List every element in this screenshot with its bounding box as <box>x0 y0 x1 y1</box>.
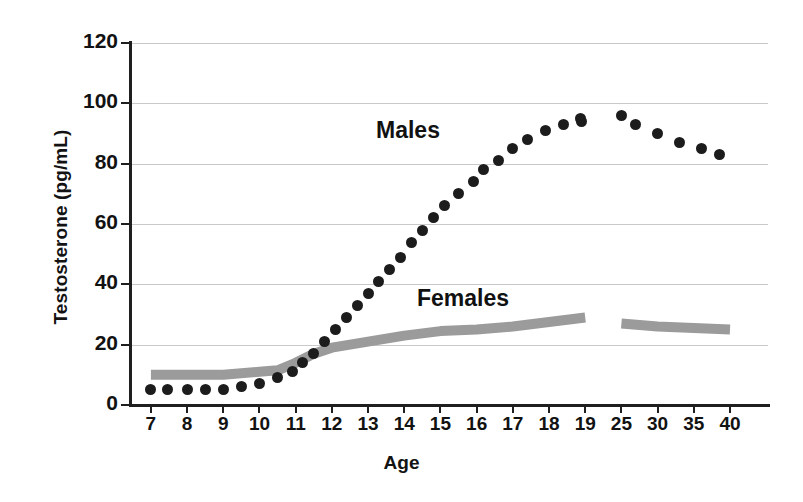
males-data-point <box>330 324 341 335</box>
chart-container: Testosterone (pg/mL) 020406080100120 Mal… <box>0 0 803 502</box>
x-axis-tick <box>548 404 550 413</box>
males-data-point <box>696 143 707 154</box>
series-label-males: Males <box>376 117 440 144</box>
y-axis-tick-label: 120 <box>0 29 118 53</box>
males-data-point <box>341 312 352 323</box>
plot-area <box>131 43 768 405</box>
x-axis-title: Age <box>0 452 803 474</box>
x-axis-tick-label: 13 <box>348 413 388 435</box>
males-data-point <box>384 264 395 275</box>
x-axis-tick <box>258 404 260 413</box>
x-axis-tick-label: 9 <box>203 413 243 435</box>
x-axis-tick-label: 40 <box>710 413 750 435</box>
males-data-point <box>395 252 406 263</box>
males-data-point <box>406 237 417 248</box>
y-axis-tick <box>121 404 132 406</box>
y-axis-tick-label: 60 <box>0 210 118 234</box>
x-axis-tick-label: 14 <box>384 413 424 435</box>
x-axis-tick-label: 19 <box>565 413 605 435</box>
x-axis-tick <box>657 404 659 413</box>
x-axis-tick <box>222 404 224 413</box>
males-data-point <box>363 288 374 299</box>
x-axis-tick <box>403 404 405 413</box>
males-data-point <box>417 225 428 236</box>
x-axis-tick <box>367 404 369 413</box>
x-axis-tick <box>439 404 441 413</box>
x-axis-tick <box>620 404 622 413</box>
x-axis-tick-label: 17 <box>493 413 533 435</box>
x-axis-tick <box>295 404 297 413</box>
x-axis-tick-label: 15 <box>420 413 460 435</box>
x-axis-tick <box>150 404 152 413</box>
males-data-point <box>558 119 569 130</box>
x-axis-tick <box>476 404 478 413</box>
males-data-point <box>674 137 685 148</box>
x-axis-tick-label: 30 <box>638 413 678 435</box>
x-axis-tick <box>331 404 333 413</box>
x-axis-tick-label: 18 <box>529 413 569 435</box>
y-axis-tick-label: 40 <box>0 270 118 294</box>
males-data-point <box>287 366 298 377</box>
x-axis-tick-label: 35 <box>674 413 714 435</box>
males-data-point <box>540 125 551 136</box>
x-axis-tick-label: 8 <box>167 413 207 435</box>
x-axis-tick-label: 11 <box>276 413 316 435</box>
x-axis-tick <box>693 404 695 413</box>
series-label-females: Females <box>417 285 509 312</box>
males-data-point <box>616 110 627 121</box>
y-axis-tick-label: 80 <box>0 150 118 174</box>
y-axis-tick <box>121 223 132 225</box>
males-data-point <box>493 155 504 166</box>
x-axis-tick-label: 7 <box>131 413 171 435</box>
males-data-point <box>522 134 533 145</box>
y-axis-tick <box>121 344 132 346</box>
males-data-point <box>182 384 193 395</box>
females-band-segment <box>151 318 585 375</box>
y-axis-tick-label: 100 <box>0 89 118 113</box>
y-axis-tick <box>121 163 132 165</box>
x-axis-tick <box>584 404 586 413</box>
x-axis-tick <box>512 404 514 413</box>
males-data-point <box>468 176 479 187</box>
females-band <box>131 43 768 405</box>
x-axis-tick-label: 25 <box>601 413 641 435</box>
x-axis-tick <box>186 404 188 413</box>
x-axis-tick-label: 12 <box>312 413 352 435</box>
x-axis-tick-label: 16 <box>457 413 497 435</box>
y-axis-tick <box>121 102 132 104</box>
y-axis-tick <box>121 283 132 285</box>
males-data-point <box>439 200 450 211</box>
x-axis-tick <box>729 404 731 413</box>
males-data-point <box>352 300 363 311</box>
females-band-segment <box>621 324 730 330</box>
y-axis-tick <box>121 42 132 44</box>
males-data-point <box>714 149 725 160</box>
y-axis-tick-label: 20 <box>0 331 118 355</box>
y-axis-tick-label: 0 <box>0 391 118 415</box>
x-axis-tick-label: 10 <box>239 413 279 435</box>
